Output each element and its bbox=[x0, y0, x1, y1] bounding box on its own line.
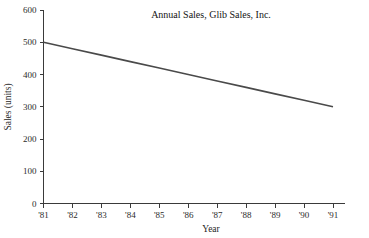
x-tick-label: '87 bbox=[212, 210, 223, 220]
chart-title: Annual Sales, Glib Sales, Inc. bbox=[151, 9, 271, 20]
line-chart-figure: Annual Sales, Glib Sales, Inc. 010020030… bbox=[0, 0, 369, 238]
x-tick-label: '86 bbox=[183, 210, 194, 220]
x-tick-label: '89 bbox=[270, 210, 281, 220]
x-tick-label: '88 bbox=[241, 210, 252, 220]
y-tick-label: 400 bbox=[23, 70, 37, 80]
x-tick-label: '83 bbox=[96, 210, 107, 220]
y-tick-label: 100 bbox=[23, 166, 37, 176]
x-tick-label: '84 bbox=[125, 210, 136, 220]
y-tick-label: 0 bbox=[32, 199, 37, 209]
y-tick-label: 200 bbox=[23, 134, 37, 144]
y-tick-label: 500 bbox=[23, 37, 37, 47]
x-tick-label: '91 bbox=[328, 210, 339, 220]
chart-background bbox=[0, 0, 369, 238]
x-axis-title: Year bbox=[202, 224, 220, 234]
x-tick-label: '82 bbox=[67, 210, 78, 220]
y-tick-label: 300 bbox=[23, 102, 37, 112]
x-tick-label: '90 bbox=[299, 210, 310, 220]
y-axis-title: Sales (units) bbox=[3, 83, 14, 130]
chart-canvas: Annual Sales, Glib Sales, Inc. 010020030… bbox=[0, 0, 369, 238]
x-tick-label: '81 bbox=[38, 210, 49, 220]
y-tick-label: 600 bbox=[23, 5, 37, 15]
x-tick-label: '85 bbox=[154, 210, 165, 220]
